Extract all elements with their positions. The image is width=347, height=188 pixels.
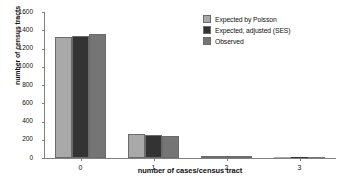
y-tick-label: 1600 bbox=[7, 9, 33, 16]
y-tick-label: 800 bbox=[7, 82, 33, 89]
y-tick-label: 1200 bbox=[7, 45, 33, 52]
y-tick bbox=[42, 12, 45, 13]
y-tick-label: 600 bbox=[7, 100, 33, 107]
legend-label: Expected by Poisson bbox=[215, 16, 277, 23]
x-tick bbox=[300, 158, 301, 161]
bar bbox=[291, 157, 308, 158]
y-tick bbox=[42, 122, 45, 123]
y-tick-label: 1400 bbox=[7, 27, 33, 34]
legend-item[interactable]: Observed bbox=[203, 36, 290, 46]
y-tick bbox=[42, 158, 45, 159]
legend-swatch-icon bbox=[203, 15, 211, 23]
legend-item[interactable]: Expected, adjusted (SES) bbox=[203, 25, 290, 35]
bar bbox=[145, 135, 162, 158]
y-tick bbox=[42, 85, 45, 86]
y-tick bbox=[42, 49, 45, 50]
y-tick-label: 1000 bbox=[7, 63, 33, 70]
legend-swatch-icon bbox=[203, 37, 211, 45]
y-tick bbox=[42, 103, 45, 104]
plot-area: 02004006008001000120014001600 0123 bbox=[44, 12, 336, 159]
bar bbox=[274, 157, 291, 158]
y-tick bbox=[42, 140, 45, 141]
legend-item[interactable]: Expected by Poisson bbox=[203, 14, 290, 24]
bar bbox=[162, 136, 179, 158]
y-tick-label: 200 bbox=[7, 136, 33, 143]
legend-label: Expected, adjusted (SES) bbox=[215, 27, 290, 34]
bar bbox=[55, 37, 72, 158]
legend-label: Observed bbox=[215, 38, 244, 45]
bar bbox=[201, 156, 218, 158]
x-axis-line bbox=[44, 158, 336, 159]
x-axis-title: number of cases/census tract bbox=[44, 166, 336, 175]
bar-chart: number of census tracts 0200400600800100… bbox=[0, 0, 347, 188]
x-tick bbox=[227, 158, 228, 161]
bar bbox=[128, 134, 145, 158]
bar bbox=[89, 34, 106, 158]
y-tick-label: 0 bbox=[7, 155, 33, 162]
y-tick bbox=[42, 30, 45, 31]
y-tick-label: 400 bbox=[7, 118, 33, 125]
legend-swatch-icon bbox=[203, 26, 211, 34]
bar bbox=[235, 156, 252, 158]
bar bbox=[72, 36, 89, 158]
bar bbox=[218, 156, 235, 158]
bar bbox=[308, 157, 325, 158]
x-tick bbox=[154, 158, 155, 161]
legend: Expected by PoissonExpected, adjusted (S… bbox=[203, 14, 290, 47]
x-tick bbox=[81, 158, 82, 161]
y-tick bbox=[42, 67, 45, 68]
